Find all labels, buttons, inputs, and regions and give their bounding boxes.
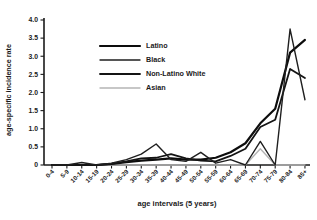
x-tick-label: 75-79 xyxy=(262,167,279,184)
y-tick-label: 0.5 xyxy=(29,143,39,150)
plot-layer: 00.51.01.52.02.53.03.54.00-45-910-1415-1… xyxy=(29,16,310,184)
x-tick-label: 80-84 xyxy=(277,167,294,184)
x-tick-label: 20-24 xyxy=(99,167,116,184)
legend-label-non-latino-white: Non-Latino White xyxy=(146,69,205,78)
y-tick-label: 1.0 xyxy=(29,125,39,132)
x-tick-label: 65-69 xyxy=(233,167,250,184)
y-tick-label: 3.5 xyxy=(29,34,39,41)
x-tick-label: 70-74 xyxy=(247,167,264,184)
y-tick-label: 4.0 xyxy=(29,16,39,23)
y-tick-label: 1.5 xyxy=(29,107,39,114)
x-tick-label: 35-39 xyxy=(143,167,160,184)
figure-container: 00.51.01.52.02.53.03.54.00-45-910-1415-1… xyxy=(0,0,317,220)
x-tick-label: 5-9 xyxy=(59,167,71,179)
x-tick-label: 15-19 xyxy=(84,167,101,184)
x-tick-label: 50-54 xyxy=(188,167,205,184)
x-axis-title: age intervals (5 years) xyxy=(138,199,217,208)
legend-label-latino: Latino xyxy=(146,41,168,50)
y-tick-label: 3.0 xyxy=(29,53,39,60)
y-axis-title: age-specific incidence rate xyxy=(4,44,13,136)
x-tick-label: 10-14 xyxy=(69,167,86,184)
y-tick-label: 2.0 xyxy=(29,89,39,96)
y-tick-label: 0 xyxy=(34,161,38,168)
x-tick-label: 40-44 xyxy=(158,167,175,184)
x-tick-label: 45-49 xyxy=(173,167,190,184)
legend-label-asian: Asian xyxy=(146,83,166,92)
x-tick-label: 60-64 xyxy=(218,167,235,184)
x-tick-label: 0-4 xyxy=(44,167,56,179)
legend-label-black: Black xyxy=(146,55,165,64)
series-line-latino xyxy=(52,40,305,165)
incidence-line-chart: 00.51.01.52.02.53.03.54.00-45-910-1415-1… xyxy=(0,0,317,220)
y-tick-label: 2.5 xyxy=(29,71,39,78)
x-tick-label: 25-29 xyxy=(113,167,130,184)
x-tick-label: 55-59 xyxy=(203,167,220,184)
x-tick-label: 30-34 xyxy=(128,167,145,184)
series-line-black xyxy=(52,29,305,165)
x-tick-label: 85+ xyxy=(296,167,309,180)
